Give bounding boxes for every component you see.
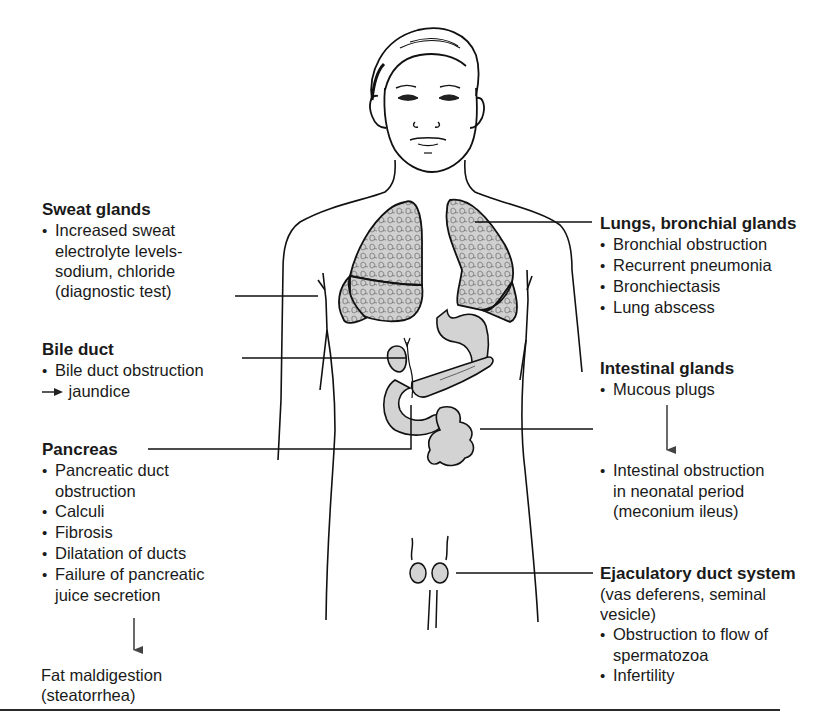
pancreas [412,357,493,397]
bile-duct-title: Bile duct [42,339,204,360]
pancreas-bullet: Dilatation of ducts [42,543,205,564]
pancreas-bullet-cont: obstruction [42,481,205,501]
pancreas-bullet: Calculi [42,501,205,522]
lungs [339,200,517,323]
label-ejaculatory-duct: Ejaculatory duct system (vas deferens, s… [600,563,796,686]
lungs-bullet: Bronchiectasis [600,276,796,297]
intestinal-title: Intestinal glands [600,358,734,379]
digestive-organs [384,310,493,465]
sweat-glands-title: Sweat glands [42,199,182,220]
label-lungs: Lungs, bronchial glands Bronchial obstru… [600,213,796,318]
ejaculatory-bullet: Infertility [600,665,796,686]
label-pancreas: Pancreas Pancreatic duct obstruction Cal… [42,439,205,605]
pancreas-result-line: (steatorrhea) [41,685,162,705]
label-bile-duct: Bile duct Bile duct obstruction jaundice [42,339,204,401]
lungs-title: Lungs, bronchial glands [600,213,796,234]
reproductive-organs [410,536,448,630]
bile-result-text: jaundice [69,382,130,400]
bottom-divider [0,709,780,711]
pancreas-result: Fat maldigestion (steatorrhea) [41,665,162,705]
intestinal-result: Intestinal obstruction in neonatal perio… [600,460,764,521]
lungs-bullet: Recurrent pneumonia [600,255,796,276]
intestinal-result-cont: (meconium ileus) [600,501,764,521]
ejaculatory-bullet: Obstruction to flow of [600,624,796,645]
testis-left [432,563,448,583]
label-intestinal-glands: Intestinal glands Mucous plugs [600,358,734,400]
intestinal-result-line: Intestinal obstruction [600,460,764,481]
bile-result: jaundice [42,381,204,401]
sweat-bullet-cont: sodium, chloride [42,261,182,281]
ejaculatory-subtitle: vesicle) [600,604,796,624]
ejaculatory-subtitle: (vas deferens, seminal [600,584,796,604]
pancreas-result-line: Fat maldigestion [41,665,162,685]
intestinal-result-cont: in neonatal period [600,481,764,501]
pancreas-bullet: Fibrosis [42,522,205,543]
label-sweat-glands: Sweat glands Increased sweat electrolyte… [42,199,182,301]
sweat-bullet-cont: (diagnostic test) [42,281,182,301]
sweat-bullet-cont: electrolyte levels- [42,241,182,261]
ejaculatory-bullet-cont: spermatozoa [600,645,796,665]
pancreas-bullet: Failure of pancreatic [42,564,205,585]
ejaculatory-title: Ejaculatory duct system [600,563,796,584]
lungs-bullet: Lung abscess [600,297,796,318]
right-arrow-icon [42,387,64,397]
pancreas-bullet: Pancreatic duct [42,460,205,481]
lungs-bullet: Bronchial obstruction [600,234,796,255]
pancreas-bullet-cont: juice secretion [42,585,205,605]
intestinal-bullet: Mucous plugs [600,379,734,400]
head [370,28,484,172]
sweat-bullet-line: Increased sweat [42,220,182,241]
testis-right [410,563,426,583]
gallbladder [388,346,407,372]
right-lung-upper [350,201,422,285]
pancreas-title: Pancreas [42,439,205,460]
bile-bullet: Bile duct obstruction [42,360,204,381]
